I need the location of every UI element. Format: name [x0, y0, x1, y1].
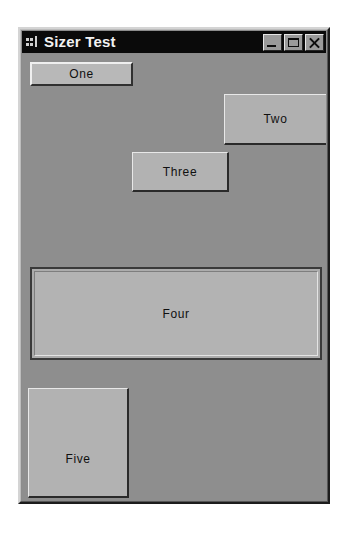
- sizer-panel-three[interactable]: Three: [132, 152, 229, 192]
- sizer-panel-four-inner: Four: [34, 271, 318, 356]
- window-title: Sizer Test: [44, 33, 261, 51]
- close-button[interactable]: [305, 34, 324, 51]
- application-window: Sizer Test One Two Three Four: [18, 27, 330, 504]
- sizer-panel-four-label: Four: [162, 307, 189, 321]
- sizer-panel-two-label: Two: [264, 112, 288, 126]
- application-icon: [25, 35, 40, 49]
- sizer-panel-two[interactable]: Two: [224, 94, 326, 145]
- title-bar[interactable]: Sizer Test: [22, 31, 326, 53]
- sizer-panel-five-label: Five: [65, 452, 90, 466]
- sizer-panel-five[interactable]: Five: [28, 388, 129, 498]
- sizer-panel-one[interactable]: One: [30, 62, 133, 86]
- maximize-icon-caption: [288, 38, 299, 40]
- sizer-panel-four[interactable]: Four: [30, 267, 322, 360]
- sizer-panel-three-label: Three: [163, 165, 197, 179]
- minimize-icon: [267, 45, 276, 47]
- client-area: One Two Three Four Five: [22, 54, 326, 500]
- sizer-panel-one-label: One: [69, 67, 93, 81]
- maximize-button[interactable]: [284, 34, 303, 51]
- minimize-button[interactable]: [263, 34, 282, 51]
